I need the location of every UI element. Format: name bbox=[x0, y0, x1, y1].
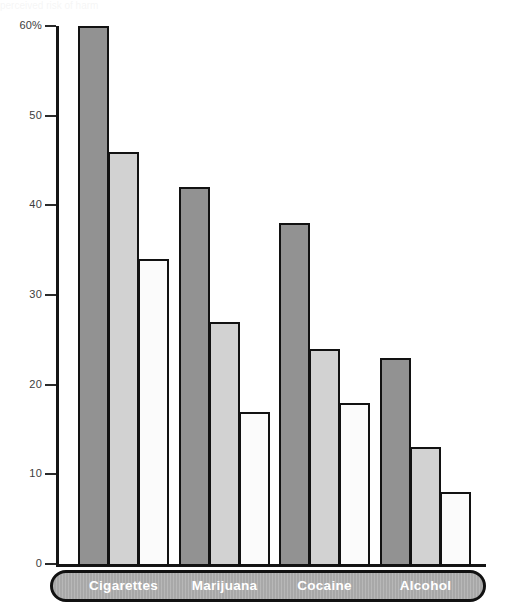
bar-cigarettes-series-3 bbox=[138, 259, 169, 566]
bar-cigarettes-series-2 bbox=[108, 152, 139, 566]
bar-marijuana-series-1 bbox=[179, 187, 210, 566]
bar-alcohol-series-3 bbox=[440, 492, 471, 566]
bar-alcohol-series-1 bbox=[380, 358, 411, 566]
bars-layer bbox=[0, 0, 506, 614]
bar-cocaine-series-3 bbox=[339, 403, 370, 566]
category-label-marijuana: Marijuana bbox=[179, 578, 270, 594]
category-label-alcohol: Alcohol bbox=[380, 578, 471, 594]
bar-cocaine-series-2 bbox=[309, 349, 340, 566]
bar-marijuana-series-2 bbox=[209, 322, 240, 566]
bar-chart: perceived risk of harm 0102030405060% Ci… bbox=[0, 0, 506, 614]
bar-cocaine-series-1 bbox=[279, 223, 310, 566]
category-label-cocaine: Cocaine bbox=[279, 578, 370, 594]
bar-marijuana-series-3 bbox=[239, 412, 270, 566]
bar-cigarettes-series-1 bbox=[78, 26, 109, 566]
bar-alcohol-series-2 bbox=[410, 447, 441, 566]
category-label-cigarettes: Cigarettes bbox=[78, 578, 169, 594]
